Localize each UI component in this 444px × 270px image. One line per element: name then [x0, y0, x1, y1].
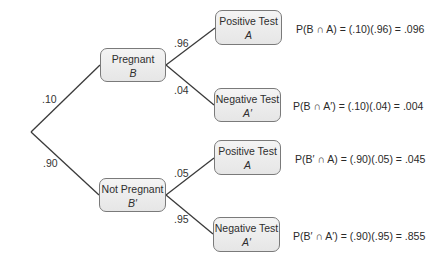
- equation-bprime-and-aprime: P(B′ ∩ A′) = (.90)(.95) = .855: [293, 230, 425, 242]
- branch-prob-positive-bprime: .05: [174, 167, 189, 179]
- node-pregnant: Pregnant B: [100, 48, 166, 82]
- node-symbol: A′: [214, 235, 279, 249]
- equation-bprime-and-a: P(B′ ∩ A) = (.90)(.05) = .045: [295, 153, 425, 165]
- node-symbol: B′: [100, 196, 165, 210]
- node-not-pregnant: Not Pregnant B′: [99, 178, 166, 212]
- node-symbol: A′: [215, 106, 280, 120]
- node-symbol: A: [215, 158, 280, 172]
- node-label: Positive Test: [219, 15, 278, 27]
- equation-b-and-aprime: P(B ∩ A′) = (.10)(.04) = .004: [293, 100, 423, 112]
- node-label: Negative Test: [215, 222, 278, 234]
- node-positive-test-b: Positive Test A: [215, 10, 282, 45]
- node-negative-test-bprime: Negative Test A′: [213, 217, 280, 252]
- node-positive-test-bprime: Positive Test A: [214, 140, 281, 175]
- branch-prob-positive-b: .96: [174, 37, 189, 49]
- node-label: Pregnant: [112, 53, 155, 65]
- node-label: Not Pregnant: [102, 183, 164, 195]
- branch-prob-not-pregnant: .90: [43, 157, 58, 169]
- branch-prob-pregnant: .10: [42, 93, 57, 105]
- branch-prob-negative-b: .04: [174, 84, 189, 96]
- node-label: Positive Test: [218, 145, 277, 157]
- node-symbol: B: [101, 66, 165, 80]
- branch-root-to-not-pregnant: [31, 132, 99, 195]
- node-symbol: A: [216, 28, 281, 42]
- node-label: Negative Test: [216, 93, 279, 105]
- equation-b-and-a: P(B ∩ A) = (.10)(.96) = .096: [296, 23, 424, 35]
- node-negative-test-b: Negative Test A′: [214, 88, 281, 122]
- branch-prob-negative-bprime: .95: [174, 213, 189, 225]
